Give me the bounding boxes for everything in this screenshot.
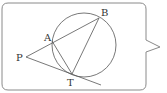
label-p: P (16, 52, 23, 63)
diagram-canvas: A B P T (0, 0, 167, 93)
label-b: B (101, 7, 108, 18)
label-a: A (43, 32, 52, 43)
label-t: T (67, 77, 74, 88)
